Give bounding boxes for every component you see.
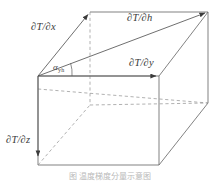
- alpha-subscript: yh: [58, 67, 64, 73]
- label-dtdh: ∂T/∂h: [127, 13, 152, 24]
- angle-arc-alpha: [71, 63, 73, 76]
- edge-right-bottom: [159, 103, 208, 165]
- cube-solid-edges: [38, 12, 208, 165]
- figure-caption: 图 温度梯度分量示意图: [0, 172, 220, 181]
- hidden-edge-back-diagonal: [38, 89, 208, 103]
- label-dtdz: ∂T/∂z: [6, 135, 30, 146]
- label-angle-alpha: αyh: [53, 63, 64, 73]
- hidden-edge-back-bottom: [90, 103, 208, 105]
- edge-top-right: [159, 12, 208, 76]
- hidden-edge-back-left: [38, 105, 90, 165]
- cube-hidden-edges: [38, 12, 208, 165]
- label-dtdy: ∂T/∂y: [129, 58, 154, 69]
- gradient-vectors: [38, 13, 205, 156]
- label-dtdx: ∂T/∂x: [31, 22, 56, 33]
